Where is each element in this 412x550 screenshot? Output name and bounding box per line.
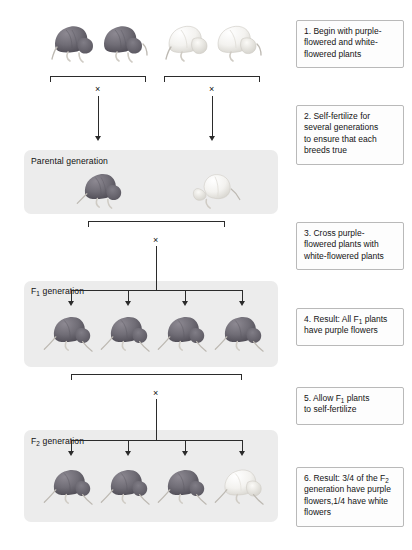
plant-f1-4 [222, 310, 266, 354]
white-flower-icon [222, 463, 266, 507]
f1-distribution-bar [71, 290, 242, 291]
genetics-diagram: Parental generation F1 generation F2 gen… [0, 0, 412, 550]
f2-distribution-bar [71, 440, 242, 441]
band-label-f1-sub: 1 [36, 290, 40, 297]
callout-step-5-sub: 1 [341, 397, 345, 404]
plant-f2-3 [165, 463, 209, 507]
callout-step-5-prefix: 5. Allow F [304, 393, 341, 403]
white-flower-icon [215, 20, 261, 64]
callout-step-2-line-1: 2. Self-fertilize for [304, 111, 397, 122]
plant-top-purple-2 [101, 20, 147, 64]
plant-f2-1 [51, 463, 95, 507]
band-label-f2-suffix: generation [40, 436, 84, 446]
callout-step-4-sub: 1 [359, 318, 363, 325]
plant-f1-1 [51, 310, 95, 354]
f1-arrow-2 [125, 301, 131, 306]
f2-arrow-1 [68, 451, 74, 456]
plant-f1-2 [108, 310, 152, 354]
band-label-f2-sub: 2 [36, 440, 40, 447]
callout-step-2: 2. Self-fertilize for several generation… [296, 105, 404, 165]
callout-step-3-line-1: 3. Cross purple- [304, 228, 397, 239]
band-label-parental: Parental generation [31, 156, 108, 166]
callout-step-1-line-3: flowered plants [304, 49, 397, 60]
cross-symbol-white-parents: × [209, 85, 214, 94]
purple-flower-icon [52, 20, 98, 64]
callout-step-1-line-1: 1. Begin with purple- [304, 26, 397, 37]
purple-flower-icon [82, 168, 126, 210]
callout-step-4-prefix: 4. Result: All F [304, 314, 359, 324]
purple-flower-icon [51, 463, 95, 507]
callout-step-3-line-2: flowered plants with [304, 239, 397, 250]
band-label-f1: F1 generation [31, 286, 84, 296]
purple-flower-icon [108, 463, 152, 507]
arrow-line-purple-to-parental [98, 96, 99, 138]
callout-step-4-suffix: plants [362, 314, 387, 324]
callout-step-6: 6. Result: 3/4 of the F2 generation have… [296, 467, 404, 527]
purple-flower-icon [165, 310, 209, 354]
callout-step-4: 4. Result: All F1 plants have purple flo… [296, 308, 404, 346]
callout-step-6-prefix: 6. Result: 3/4 of the F [304, 473, 385, 483]
line-parental-to-f1 [156, 246, 157, 290]
callout-step-2-line-4: breeds true [304, 145, 397, 156]
band-label-parental-text: Parental generation [31, 156, 108, 166]
callout-step-5-line-2: to self-fertilize [304, 404, 397, 415]
purple-flower-icon [222, 310, 266, 354]
callout-step-6-line-3: flowers,1/4 have white [304, 496, 397, 507]
callout-step-1-line-2: flowered and white- [304, 37, 397, 48]
purple-flower-icon [165, 463, 209, 507]
bracket-white-parents [164, 76, 260, 82]
f2-arrow-2 [125, 451, 131, 456]
white-flower-icon [166, 20, 212, 64]
line-f1-to-f2 [156, 399, 157, 440]
plant-f2-2 [108, 463, 152, 507]
callout-step-2-line-3: to ensure that each [304, 134, 397, 145]
f2-arrow-3 [182, 451, 188, 456]
white-flower-icon [192, 168, 236, 210]
arrow-head-white-to-parental [209, 136, 215, 141]
plant-parental-white [192, 168, 236, 210]
callout-step-4-line-2: have purple flowers [304, 325, 397, 336]
callout-step-3-line-3: white-flowered plants [304, 251, 397, 262]
plant-top-white-2 [215, 20, 261, 64]
band-label-f1-suffix: generation [40, 286, 84, 296]
plant-f1-3 [165, 310, 209, 354]
callout-step-5-suffix: plants [344, 393, 369, 403]
cross-symbol-parental: × [153, 236, 158, 245]
callout-step-6-line-4: flowers [304, 507, 397, 518]
callout-step-2-line-2: several generations [304, 122, 397, 133]
f1-arrow-4 [239, 301, 245, 306]
bracket-f1-self-fertilize [71, 374, 242, 380]
cross-symbol-purple-parents: × [95, 85, 100, 94]
callout-step-6-line-2: generation have purple [304, 484, 397, 495]
purple-flower-icon [108, 310, 152, 354]
callout-step-1: 1. Begin with purple- flowered and white… [296, 20, 404, 68]
purple-flower-icon [51, 310, 95, 354]
f2-arrow-4 [239, 451, 245, 456]
bracket-parental-cross [88, 221, 225, 227]
purple-flower-icon [101, 20, 147, 64]
callout-step-3: 3. Cross purple- flowered plants with wh… [296, 222, 404, 270]
callout-step-5: 5. Allow F1 plants to self-fertilize [296, 387, 404, 425]
arrow-line-white-to-parental [212, 96, 213, 138]
f1-arrow-1 [68, 301, 74, 306]
f1-arrow-3 [182, 301, 188, 306]
callout-step-6-sub: 2 [385, 477, 389, 484]
cross-symbol-f1-self: × [153, 389, 158, 398]
bracket-purple-parents [50, 76, 146, 82]
plant-top-purple-1 [52, 20, 98, 64]
arrow-head-purple-to-parental [95, 136, 101, 141]
callout-step-6-line-1: 6. Result: 3/4 of the F2 [304, 473, 397, 484]
plant-f2-4 [222, 463, 266, 507]
plant-parental-purple [82, 168, 126, 210]
plant-top-white-1 [166, 20, 212, 64]
band-label-f2: F2 generation [31, 436, 84, 446]
callout-step-5-line-1: 5. Allow F1 plants [304, 393, 397, 404]
callout-step-4-line-1: 4. Result: All F1 plants [304, 314, 397, 325]
